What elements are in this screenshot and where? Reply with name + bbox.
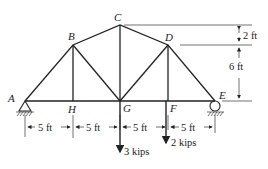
truss-members xyxy=(25,25,215,101)
pin-support-icon xyxy=(16,101,34,116)
joint-label-e: E xyxy=(218,89,226,101)
dim-label-fe: 5 ft xyxy=(181,122,195,133)
truss-diagram: A B C D E F G H 2 ft 6 ft 5 ft 5 ft 5 ft… xyxy=(0,0,268,169)
joint-label-c: C xyxy=(114,11,122,23)
joint-label-b: B xyxy=(68,30,75,42)
joint-label-a: A xyxy=(7,92,15,104)
joint-label-h: H xyxy=(67,103,77,115)
member-bg xyxy=(73,45,120,101)
dim-label-hg: 5 ft xyxy=(86,122,100,133)
joint-label-f: F xyxy=(169,102,177,114)
load-label-g: 3 kips xyxy=(124,146,149,157)
dim-label-gf: 5 ft xyxy=(133,122,147,133)
dim-label-6ft: 6 ft xyxy=(229,61,243,72)
dim-label-2ft: 2 ft xyxy=(243,30,257,41)
roller-support-icon xyxy=(207,101,224,116)
load-label-f: 2 kips xyxy=(171,137,196,148)
joint-label-g: G xyxy=(123,102,131,114)
joint-label-d: D xyxy=(164,31,173,43)
member-dg xyxy=(120,45,168,101)
dim-label-ah: 5 ft xyxy=(38,122,52,133)
